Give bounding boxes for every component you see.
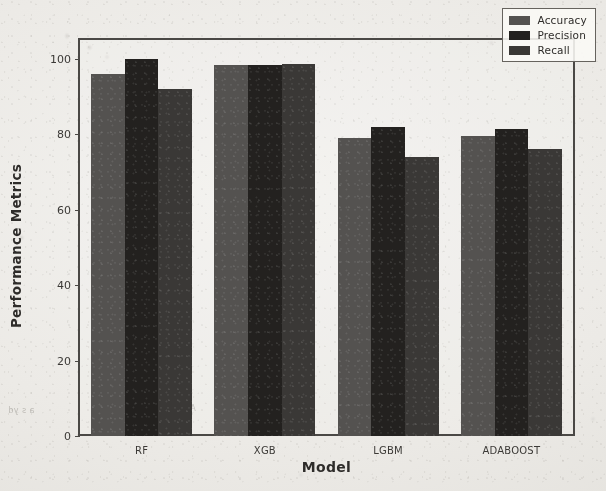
bleed-through-text-left: a s yd (8, 406, 34, 415)
bar-group (214, 40, 315, 436)
bar-accuracy-adaboost (461, 136, 495, 436)
bar-group (338, 40, 439, 436)
y-tick-label: 100 (50, 52, 71, 65)
legend-label: Precision (537, 29, 586, 41)
y-tick-label: 80 (57, 128, 71, 141)
y-tick-mark (75, 59, 80, 60)
bar-recall-rf (158, 89, 192, 436)
bar-group (461, 40, 562, 436)
legend-label: Accuracy (537, 14, 587, 26)
y-tick-label: 0 (64, 430, 71, 443)
x-tick-label-rf: RF (135, 445, 148, 456)
bar-accuracy-xgb (214, 65, 248, 436)
figure-page: a s yd AAMAAAAAAA Performance Metrics Mo… (0, 0, 606, 491)
legend-item-precision[interactable]: Precision (509, 29, 587, 41)
bar-precision-adaboost (495, 129, 529, 436)
y-tick-label: 40 (57, 279, 71, 292)
y-tick-mark (75, 210, 80, 211)
y-tick-label: 20 (57, 354, 71, 367)
y-tick-mark (75, 361, 80, 362)
y-tick-label: 60 (57, 203, 71, 216)
legend-item-accuracy[interactable]: Accuracy (509, 14, 587, 26)
y-tick-mark (75, 436, 80, 437)
bar-recall-xgb (282, 64, 316, 436)
bar-precision-lgbm (371, 127, 405, 436)
bar-accuracy-rf (91, 74, 125, 436)
x-axis-label: Model (78, 459, 575, 475)
bar-precision-rf (125, 59, 159, 436)
legend-label: Recall (537, 44, 570, 56)
y-tick-mark (75, 285, 80, 286)
legend: AccuracyPrecisionRecall (502, 8, 596, 62)
legend-swatch-accuracy-icon (509, 16, 530, 25)
x-tick-label-xgb: XGB (254, 445, 276, 456)
plot-area: 020406080100 RFXGBLGBMADABOOST (80, 40, 573, 436)
bar-accuracy-lgbm (338, 138, 372, 436)
bar-recall-lgbm (405, 157, 439, 436)
x-tick-label-lgbm: LGBM (373, 445, 403, 456)
bar-recall-adaboost (528, 149, 562, 436)
legend-swatch-recall-icon (509, 46, 530, 55)
bar-precision-xgb (248, 65, 282, 436)
y-tick-mark (75, 134, 80, 135)
x-tick-label-adaboost: ADABOOST (483, 445, 541, 456)
legend-swatch-precision-icon (509, 31, 530, 40)
bar-group (91, 40, 192, 436)
legend-item-recall[interactable]: Recall (509, 44, 587, 56)
y-axis-label: Performance Metrics (8, 163, 24, 327)
